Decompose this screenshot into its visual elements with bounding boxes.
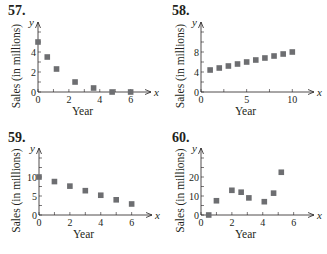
- data-point: [244, 59, 250, 65]
- x-tick-label: 10: [287, 94, 297, 105]
- data-point: [83, 188, 89, 194]
- y-axis-title: Sales (in millions): [174, 148, 187, 233]
- x-axis-letter: x: [316, 209, 322, 221]
- data-point: [278, 169, 284, 175]
- x-tick-label: 2: [66, 94, 71, 105]
- scatter-plot: 0246024xyYearSales (in millions): [0, 0, 163, 127]
- data-point: [229, 188, 235, 194]
- data-point: [206, 212, 212, 218]
- data-point: [246, 195, 252, 201]
- data-point: [54, 66, 60, 72]
- x-tick-label: 4: [260, 217, 265, 228]
- data-point: [128, 89, 134, 95]
- y-axis-letter: y: [191, 142, 197, 154]
- x-tick-label: 4: [98, 217, 103, 228]
- data-point: [35, 39, 41, 45]
- data-point: [235, 61, 241, 67]
- data-point: [91, 85, 97, 91]
- data-point: [262, 55, 268, 61]
- data-point: [98, 192, 104, 198]
- data-point: [36, 174, 42, 180]
- data-point: [52, 179, 58, 185]
- x-axis-title: Year: [235, 105, 256, 117]
- y-tick-label: 10: [189, 191, 199, 202]
- data-point: [214, 198, 220, 204]
- x-axis-letter: x: [153, 86, 159, 98]
- x-axis-title: Year: [72, 105, 93, 117]
- data-point: [238, 189, 244, 195]
- data-point: [72, 79, 78, 85]
- data-point: [290, 49, 296, 55]
- data-point: [226, 63, 232, 69]
- y-tick-label: 4: [194, 67, 199, 78]
- y-axis-title: Sales (in millions): [10, 148, 23, 233]
- data-point: [253, 57, 259, 63]
- data-point: [280, 51, 286, 57]
- y-tick-label: 4: [31, 47, 36, 58]
- data-point: [109, 89, 115, 95]
- y-axis-title: Sales (in millions): [10, 24, 23, 109]
- x-tick-label: 4: [97, 94, 102, 105]
- y-axis-letter: y: [28, 16, 34, 28]
- x-tick-label: 2: [229, 217, 234, 228]
- chart-59: 59. 02460510xyYearSales (in millions): [0, 127, 163, 254]
- y-axis-title: Sales (in millions): [174, 24, 187, 109]
- x-tick-label: 6: [129, 217, 134, 228]
- scatter-plot: 024601020xyYearSales (in millions): [164, 127, 327, 254]
- y-tick-label: 0: [32, 210, 37, 221]
- chart-60: 60. 024601020xyYearSales (in millions): [164, 127, 327, 254]
- x-tick-label: 6: [291, 217, 296, 228]
- y-axis-letter: y: [29, 142, 35, 154]
- x-axis-title: Year: [73, 228, 94, 240]
- data-point: [271, 53, 277, 59]
- y-tick-label: 0: [194, 210, 199, 221]
- y-tick-label: 0: [194, 87, 199, 98]
- x-tick-label: 5: [244, 94, 249, 105]
- chart-57: 57. 0246024xyYearSales (in millions): [0, 0, 163, 127]
- data-point: [129, 201, 135, 207]
- data-point: [44, 54, 50, 60]
- x-tick-label: 0: [199, 217, 204, 228]
- y-tick-label: 0: [31, 87, 36, 98]
- y-tick-label: 10: [27, 172, 37, 183]
- y-axis-letter: y: [191, 16, 197, 28]
- x-tick-label: 0: [36, 94, 41, 105]
- x-tick-label: 6: [128, 94, 133, 105]
- data-point: [67, 183, 73, 189]
- y-tick-label: 2: [31, 67, 36, 78]
- data-point: [207, 67, 213, 73]
- scatter-plot: 0510048xyYearSales (in millions): [164, 0, 327, 127]
- chart-58: 58. 0510048xyYearSales (in millions): [164, 0, 327, 127]
- data-point: [216, 65, 222, 71]
- y-tick-label: 5: [32, 191, 37, 202]
- x-axis-letter: x: [154, 209, 160, 221]
- x-axis-title: Year: [235, 228, 256, 240]
- data-point: [113, 197, 119, 203]
- x-axis-letter: x: [316, 86, 322, 98]
- data-point: [262, 199, 268, 205]
- scatter-plot: 02460510xyYearSales (in millions): [0, 127, 163, 254]
- y-tick-label: 20: [189, 172, 199, 183]
- x-tick-label: 0: [37, 217, 42, 228]
- y-tick-label: 8: [194, 47, 199, 58]
- x-tick-label: 2: [67, 217, 72, 228]
- data-point: [271, 190, 277, 196]
- x-tick-label: 0: [199, 94, 204, 105]
